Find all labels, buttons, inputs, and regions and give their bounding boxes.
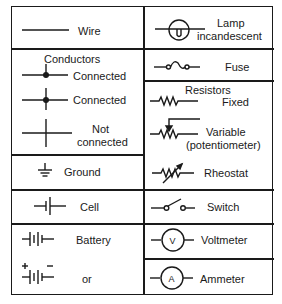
row-divider: [11, 48, 144, 50]
resistor-icon: [150, 96, 202, 106]
label-potentiometer: (potentiometer): [186, 139, 261, 151]
label-incandescent: incandescent: [197, 30, 262, 42]
conductor-crossover-icon: [22, 119, 72, 149]
label-not: Not: [92, 123, 109, 135]
label-voltmeter: Voltmeter: [201, 234, 247, 246]
fuse-icon: [154, 59, 202, 73]
conductor-junction-tee-icon: [22, 64, 72, 78]
row-divider: [143, 189, 274, 191]
switch-icon: [151, 197, 199, 213]
label-connected-2: connected: [77, 136, 128, 148]
svg-text:A: A: [169, 274, 175, 284]
svg-text:V: V: [170, 236, 176, 246]
label-variable: Variable: [206, 126, 246, 138]
ammeter-icon: A: [150, 266, 196, 292]
row-divider: [143, 223, 274, 225]
row-divider: [11, 154, 144, 156]
label-ground: Ground: [64, 166, 101, 178]
label-battery: Battery: [76, 234, 111, 246]
cell-icon: [34, 197, 70, 217]
label-fixed: Fixed: [222, 96, 249, 108]
label-or: or: [82, 273, 92, 285]
label-fuse: Fuse: [225, 61, 249, 73]
battery-polarity-icon: [22, 262, 58, 286]
label-ammeter: Ammeter: [200, 273, 245, 285]
label-rheostat: Rheostat: [204, 167, 248, 179]
label-lamp: Lamp: [217, 17, 245, 29]
row-divider: [11, 223, 144, 225]
label-switch: Switch: [207, 201, 239, 213]
voltmeter-icon: V: [151, 228, 197, 254]
row-divider: [143, 80, 274, 82]
conductor-junction-cross-icon: [22, 88, 72, 110]
row-divider: [143, 48, 274, 50]
ground-icon: [38, 163, 52, 179]
label-wire: Wire: [78, 25, 101, 37]
label-connected-cross: Connected: [73, 94, 126, 106]
row-divider: [11, 189, 144, 191]
label-cell: Cell: [80, 201, 99, 213]
battery-icon: [22, 230, 58, 248]
heading-resistors: Resistors: [185, 84, 231, 96]
rheostat-icon: [152, 162, 198, 184]
label-connected: Connected: [73, 70, 126, 82]
wire-icon: [22, 29, 72, 33]
row-divider: [143, 258, 274, 260]
potentiometer-icon: [150, 118, 202, 140]
